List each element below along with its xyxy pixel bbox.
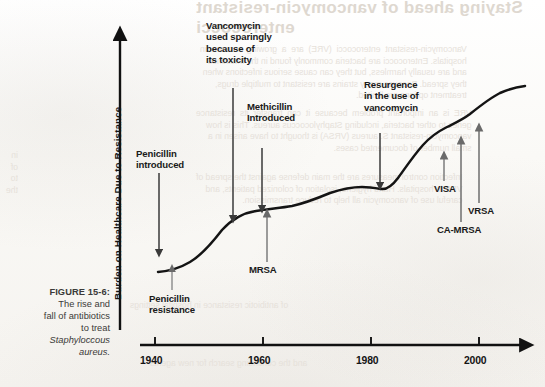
x-tick-label-1940: 1940	[140, 355, 162, 366]
annotation-penicillin-resistance: Penicillin resistance	[149, 293, 195, 316]
annotation-vancomycin-sparingly: Vancomycin used sparingly because of its…	[206, 20, 272, 66]
annotation-vancomycin-resurgence: Resurgence in the use of vancomycin	[364, 79, 419, 113]
x-tick-label-1960: 1960	[248, 355, 270, 366]
y-axis-label: Burden on Healthcare Due to Resistance	[112, 107, 123, 300]
annotation-arrows	[159, 88, 479, 290]
annotation-mrsa: MRSA	[249, 264, 277, 275]
chart-area: Burden on Healthcare Due to Resistance 1…	[0, 0, 545, 387]
annotation-visa: VISA	[434, 183, 456, 194]
annotation-methicillin-introduced: Methicillin Introduced	[247, 101, 295, 124]
annotation-ca-mrsa: CA-MRSA	[437, 224, 481, 235]
figure-page: Staying ahead of vancomycin-resistant en…	[0, 0, 545, 387]
x-tick-label-2000: 2000	[464, 355, 486, 366]
x-tick-label-1980: 1980	[356, 355, 378, 366]
annotation-vrsa: VRSA	[468, 205, 494, 216]
annotation-penicillin-introduced: Penicillin introduced	[136, 148, 184, 171]
x-axis	[140, 337, 522, 345]
resistance-curve	[158, 86, 525, 272]
